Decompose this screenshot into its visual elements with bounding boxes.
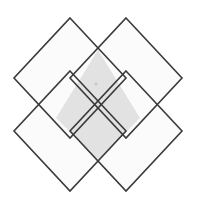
- geometric-figure: [0, 0, 197, 208]
- figure-canvas: [0, 0, 197, 208]
